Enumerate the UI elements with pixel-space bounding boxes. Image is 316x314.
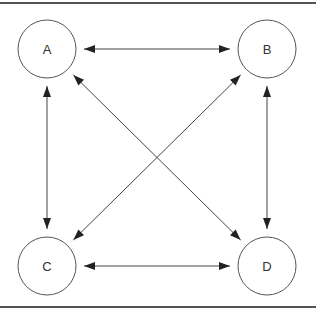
edge-a-b — [84, 45, 230, 53]
edge-a-c-arrowhead-to-c — [43, 218, 51, 229]
node-c-label: C — [42, 259, 51, 274]
node-c: C — [18, 237, 76, 295]
node-d-label: D — [262, 259, 271, 274]
edge-a-c — [43, 86, 51, 229]
node-b: B — [238, 20, 296, 78]
diagram-canvas: A B C D — [0, 0, 316, 314]
node-d: D — [238, 237, 296, 295]
edge-a-c-arrowhead-to-a — [43, 86, 51, 97]
node-a-label: A — [43, 42, 52, 57]
edge-b-d-arrowhead-to-b — [263, 86, 271, 97]
node-a: A — [18, 20, 76, 78]
edge-b-d-arrowhead-to-d — [263, 218, 271, 229]
node-b-label: B — [263, 42, 272, 57]
edge-a-b-arrowhead-to-a — [84, 45, 95, 53]
edge-c-d-arrowhead-to-d — [219, 262, 230, 270]
edge-c-d-arrowhead-to-c — [84, 262, 95, 270]
edge-c-d — [84, 262, 230, 270]
edge-a-b-arrowhead-to-b — [219, 45, 230, 53]
edges-layer — [43, 45, 271, 270]
edge-b-d — [263, 86, 271, 229]
